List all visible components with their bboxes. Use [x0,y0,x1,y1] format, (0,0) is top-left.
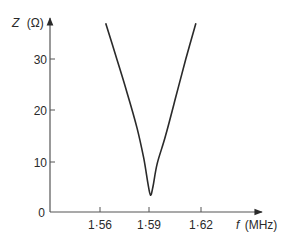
x-ticks [100,207,201,212]
impedance-chart: 30 20 10 0 1·56 1·59 1·62 Z (Ω) f (MHz) [0,0,286,237]
y-tick-labels: 30 20 10 0 [34,53,48,220]
y-tick-label: 10 [34,156,48,170]
x-tick-label: 1·56 [88,218,112,232]
x-axis-label: f (MHz) [236,218,277,232]
y-axis-label: Z (Ω) [11,16,44,30]
y-ticks [50,59,55,162]
y-axis-var: Z [11,16,20,30]
y-axis-unit: (Ω) [27,16,44,30]
x-axis-unit: (MHz) [245,218,278,232]
impedance-curve [106,23,196,195]
x-tick-label: 1·62 [189,218,213,232]
x-tick-label: 1·59 [137,218,161,232]
y-tick-label: 20 [34,104,48,118]
y-tick-label: 30 [34,53,48,67]
y-tick-label: 0 [38,206,45,220]
x-tick-labels: 1·56 1·59 1·62 [88,218,213,232]
x-axis-var: f [236,218,241,232]
